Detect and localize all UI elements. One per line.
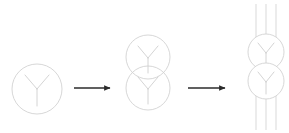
stage-3-group (248, 4, 284, 130)
stage-2-group (126, 35, 170, 110)
process-flow-diagram (0, 0, 289, 133)
diagram-canvas (0, 0, 289, 133)
y-shape-icon (138, 46, 158, 73)
y-shape-icon (25, 75, 49, 106)
y-shape-icon (138, 77, 158, 104)
stage-1-group (12, 64, 62, 114)
